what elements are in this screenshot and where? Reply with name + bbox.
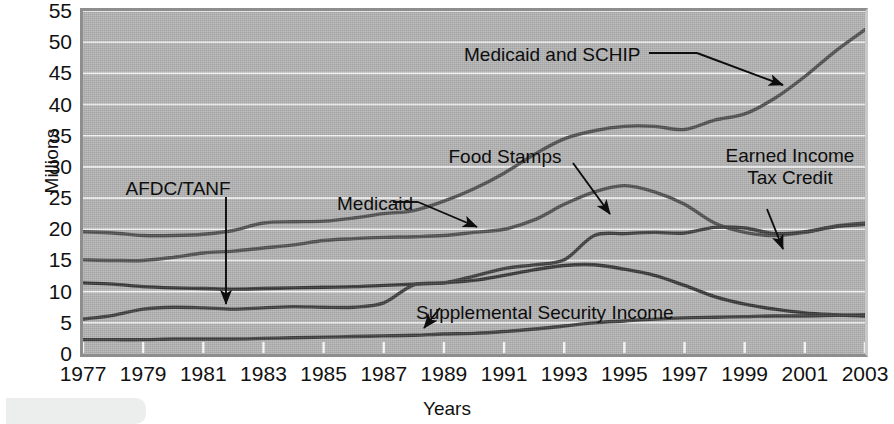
y-tick-label: 5 [10, 311, 72, 335]
y-tick-label: 20 [10, 217, 72, 241]
y-tick-label: 55 [10, 0, 72, 23]
x-tick-label: 1989 [421, 362, 468, 386]
x-tick-label: 1981 [180, 362, 227, 386]
annotation-leader [697, 53, 783, 85]
annotation-leader [767, 209, 783, 249]
y-tick-label: 35 [10, 124, 72, 148]
x-tick-label: 1997 [661, 362, 708, 386]
y-tick-label: 30 [10, 155, 72, 179]
annotation-leader [418, 202, 477, 227]
x-tick-label: 1991 [481, 362, 528, 386]
y-axis-ticks: 0510152025303540455055 [6, 0, 72, 424]
x-tick-label: 1985 [300, 362, 347, 386]
x-tick-label: 1995 [601, 362, 648, 386]
y-tick-label: 40 [10, 93, 72, 117]
y-tick-label: 25 [10, 186, 72, 210]
x-tick-label: 2001 [781, 362, 828, 386]
x-tick-label: 2003 [842, 362, 889, 386]
x-tick-label: 1979 [120, 362, 167, 386]
x-tick-label: 1987 [360, 362, 407, 386]
x-tick-label: 1999 [721, 362, 768, 386]
annotation-earned-income-tax-credit: Earned Income Tax Credit [726, 145, 855, 190]
annotation-leader [573, 163, 610, 214]
x-tick-label: 1993 [541, 362, 588, 386]
y-tick-label: 50 [10, 30, 72, 54]
x-axis-ticks: 1977197919811983198519871989199119931995… [0, 362, 894, 392]
annotation-medicaid: Medicaid [337, 193, 413, 215]
y-tick-label: 10 [10, 280, 72, 304]
y-tick-label: 45 [10, 61, 72, 85]
annotation-medicaid-schip: Medicaid and SCHIP [464, 44, 640, 66]
annotation-supplemental-security-income: Supplemental Security Income [416, 302, 674, 324]
x-axis-title: Years [0, 398, 894, 420]
x-tick-label: 1983 [240, 362, 287, 386]
annotation-food-stamps: Food Stamps [449, 146, 562, 168]
annotation-afdc-tanf: AFDC/TANF [126, 178, 231, 200]
x-tick-label: 1977 [60, 362, 107, 386]
y-tick-label: 15 [10, 248, 72, 272]
chart-root: Millions 0510152025303540455055 19771979… [0, 0, 894, 424]
